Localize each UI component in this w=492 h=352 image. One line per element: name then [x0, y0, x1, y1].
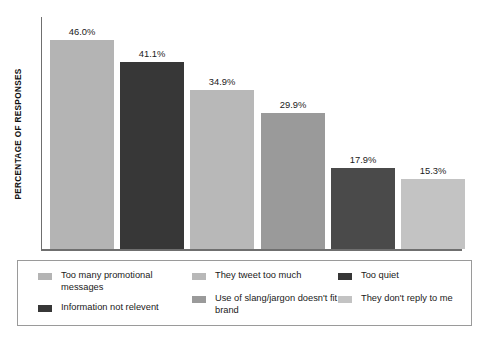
bar-value-label: 41.1% [139, 48, 166, 59]
legend-item-label: Too quiet [361, 270, 473, 282]
bar-value-label: 46.0% [69, 26, 96, 37]
figure-caption [18, 344, 458, 352]
bar-group: 46.0% [50, 17, 114, 249]
bar-group: 29.9% [261, 17, 325, 249]
legend-column: They tweet too muchUse of slang/jargon d… [192, 270, 342, 325]
legend-item[interactable]: Too many promotional messages [38, 270, 188, 293]
legend-swatch-icon [192, 273, 206, 280]
y-axis-title: PERCENTAGE OF RESPONSES [14, 68, 23, 199]
bar-value-label: 17.9% [350, 154, 377, 165]
legend-item[interactable]: Too quiet [338, 270, 473, 284]
bar [120, 62, 184, 249]
legend-swatch-icon [192, 296, 206, 303]
bar-group: 15.3% [401, 17, 465, 249]
y-axis-title-container: PERCENTAGE OF RESPONSES [0, 17, 36, 250]
bar [331, 168, 395, 249]
bar-series: 46.0%41.1%34.9%29.9%17.9%15.3% [41, 17, 462, 250]
plot-area: 46.0%41.1%34.9%29.9%17.9%15.3% [41, 17, 462, 250]
bar-group: 17.9% [331, 17, 395, 249]
bar-value-label: 29.9% [280, 99, 307, 110]
legend-swatch-icon [38, 305, 52, 312]
legend-item[interactable]: They don't reply to me [338, 293, 473, 307]
legend-swatch-icon [38, 273, 52, 280]
legend-item-label: They tweet too much [215, 270, 342, 282]
legend-swatch-icon [338, 273, 352, 280]
legend-item[interactable]: They tweet too much [192, 270, 342, 284]
legend-column: Too quietThey don't reply to me [338, 270, 473, 316]
legend-item-label: Information not relevent [61, 302, 188, 314]
bar-group: 41.1% [120, 17, 184, 249]
legend-item-label: Too many promotional messages [61, 270, 188, 293]
bar [261, 113, 325, 249]
legend: Too many promotional messagesInformation… [17, 260, 472, 326]
legend-column: Too many promotional messagesInformation… [38, 270, 188, 325]
legend-item[interactable]: Use of slang/jargon doesn't fit brand [192, 293, 342, 316]
bar [50, 40, 114, 249]
bar [190, 90, 254, 249]
bar-group: 34.9% [190, 17, 254, 249]
legend-swatch-icon [338, 296, 352, 303]
legend-item-label: Use of slang/jargon doesn't fit brand [215, 293, 342, 316]
bar-value-label: 34.9% [209, 76, 236, 87]
bar-value-label: 15.3% [420, 165, 447, 176]
bar [401, 179, 465, 249]
bar-chart-figure: PERCENTAGE OF RESPONSES 46.0%41.1%34.9%2… [0, 0, 492, 352]
legend-item[interactable]: Information not relevent [38, 302, 188, 316]
legend-item-label: They don't reply to me [361, 293, 473, 305]
